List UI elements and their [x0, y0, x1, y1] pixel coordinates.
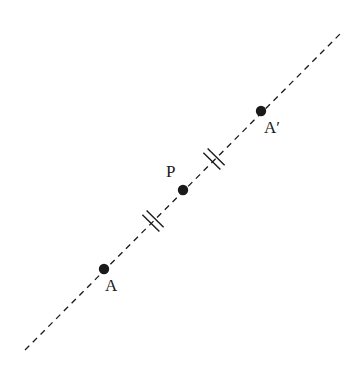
- point-a: A: [99, 264, 118, 295]
- point-dot: [99, 264, 109, 274]
- point-a-prime: A′: [256, 106, 280, 137]
- point-label: P: [166, 162, 175, 181]
- tick-line: [208, 148, 225, 165]
- tick-line: [203, 153, 220, 170]
- point-label: A: [105, 276, 118, 295]
- point-p: P: [166, 162, 188, 195]
- reflection-diagram: APA′: [0, 0, 362, 377]
- point-dot: [178, 185, 188, 195]
- double-tick-mark: [203, 148, 224, 169]
- point-label: A′: [264, 118, 280, 137]
- points-group: APA′: [99, 106, 280, 295]
- point-dot: [256, 106, 266, 116]
